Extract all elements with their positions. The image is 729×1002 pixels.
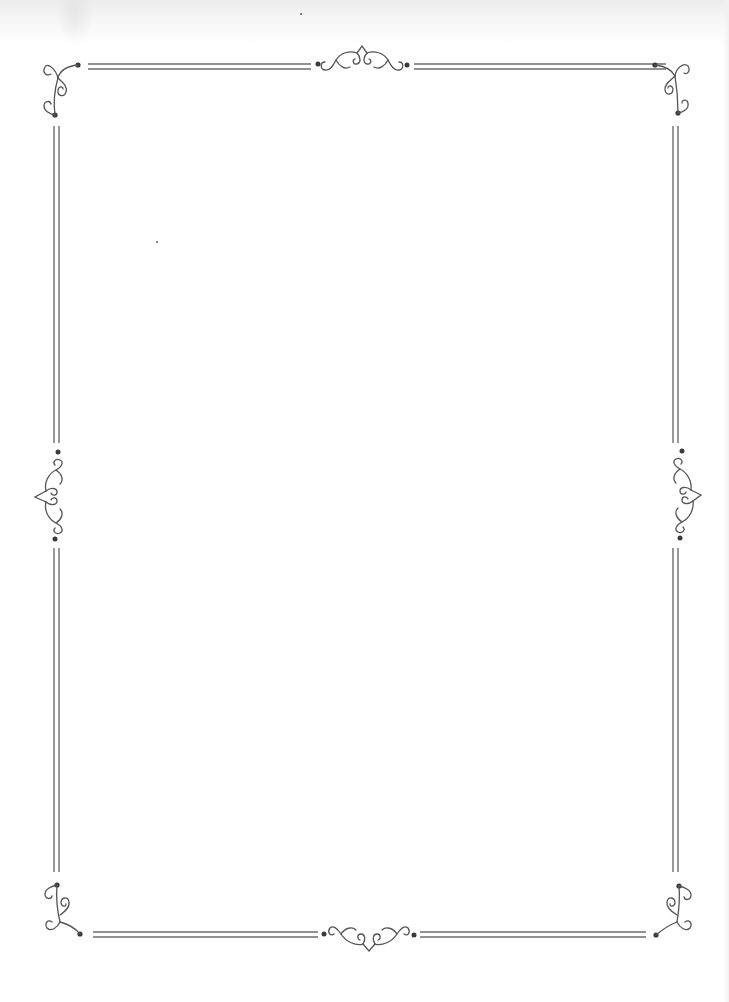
- scroll-diamond-icon: [35, 450, 62, 542]
- scroll-flourish-icon: [45, 882, 83, 936]
- paper-speck: [300, 13, 302, 15]
- bottom-border-line: [93, 932, 646, 937]
- scroll-diamond-icon: [322, 927, 417, 951]
- scroll-flourish-icon: [44, 62, 81, 117]
- border-frame: [0, 0, 729, 1002]
- scroll-diamond-icon: [316, 46, 410, 70]
- scroll-flourish-icon: [653, 883, 691, 937]
- scroll-flourish-icon: [652, 62, 689, 115]
- scroll-diamond-icon: [674, 449, 701, 541]
- right-border-line: [673, 126, 678, 872]
- paper-speck: [156, 241, 158, 243]
